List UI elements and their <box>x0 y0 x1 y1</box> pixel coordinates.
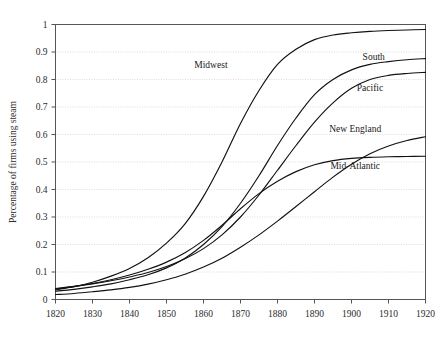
x-tick-label: 1890 <box>305 309 324 319</box>
x-tick-label: 1920 <box>416 309 435 319</box>
x-axis-tick-labels: 1820183018401850186018701880189019001910… <box>46 309 435 319</box>
x-tick-label: 1900 <box>342 309 361 319</box>
x-tick-label: 1820 <box>46 309 65 319</box>
series-label-mid-atlantic: Mid-Atlantic <box>330 161 380 171</box>
y-tick-label: 0.8 <box>36 75 48 85</box>
series-label-south: South <box>363 52 385 62</box>
series-line-south <box>56 59 426 292</box>
y-tick-label: 0.6 <box>36 130 48 140</box>
y-tick-label: 0.7 <box>36 102 48 112</box>
y-tick-label: 0.2 <box>36 240 48 250</box>
x-tick-label: 1850 <box>157 309 176 319</box>
series-label-new-england: New England <box>329 124 381 134</box>
series-label-midwest: Midwest <box>194 60 228 70</box>
series-line-midwest <box>56 29 426 289</box>
y-tick-label: 0.9 <box>36 47 48 57</box>
y-tick-label: 0 <box>43 295 48 305</box>
x-tick-label: 1830 <box>83 309 102 319</box>
x-tick-label: 1880 <box>268 309 287 319</box>
x-tick-label: 1840 <box>120 309 139 319</box>
x-tick-label: 1860 <box>194 309 213 319</box>
x-tick-label: 1870 <box>231 309 250 319</box>
series-label-pacific: Pacific <box>357 83 383 93</box>
series-line-pacific <box>56 72 426 288</box>
x-tick-label: 1910 <box>379 309 398 319</box>
series-line-mid-atlantic <box>56 156 426 289</box>
y-axis-tickmarks <box>52 25 56 300</box>
y-axis-tick-labels: 00.10.20.30.40.50.60.70.80.91 <box>36 20 48 305</box>
x-axis-tickmarks <box>56 300 426 304</box>
y-tick-label: 1 <box>43 20 48 30</box>
y-axis-title-text: Percentage of firms using steam <box>8 100 18 222</box>
y-tick-label: 0.4 <box>36 185 48 195</box>
chart-canvas: 00.10.20.30.40.50.60.70.80.91 1820183018… <box>0 0 448 337</box>
y-tick-label: 0.5 <box>36 157 48 167</box>
y-tick-label: 0.3 <box>36 212 48 222</box>
y-axis-title: Percentage of firms using steam <box>8 100 18 222</box>
y-tick-label: 0.1 <box>36 267 48 277</box>
steam-adoption-line-chart: 00.10.20.30.40.50.60.70.80.91 1820183018… <box>0 0 448 337</box>
